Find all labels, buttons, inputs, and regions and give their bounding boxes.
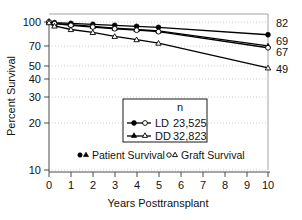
open-circle-icon bbox=[266, 45, 271, 50]
legend-dd-label: DD bbox=[155, 130, 171, 142]
y-tick-label-40: 40 bbox=[29, 73, 41, 85]
open-circle-icon bbox=[143, 121, 148, 126]
x-tick-label-10: 10 bbox=[262, 179, 274, 191]
y-tick-label-30: 30 bbox=[29, 91, 41, 103]
y-tick-label-100: 100 bbox=[23, 16, 41, 28]
endpoint-labels: 82 69 67 49 bbox=[276, 17, 288, 75]
y-tick-label-50: 50 bbox=[29, 60, 41, 72]
open-triangle-icon bbox=[173, 152, 178, 156]
x-tick-label-6: 6 bbox=[178, 179, 184, 191]
annotation-graft-survival: Graft Survival bbox=[167, 149, 245, 161]
endpoint-label-67: 67 bbox=[276, 46, 288, 58]
legend-header-n: n bbox=[177, 101, 183, 113]
filled-triangle-icon bbox=[84, 152, 89, 156]
open-circle-icon bbox=[167, 153, 171, 157]
legend-ld-n: 23,525 bbox=[173, 117, 207, 129]
y-tick-label-10: 10 bbox=[29, 164, 41, 176]
filled-circle-icon bbox=[266, 32, 271, 37]
filled-circle-icon bbox=[78, 153, 82, 157]
survival-chart: 100 70 50 40 30 20 10 Percent Survival 0… bbox=[0, 0, 302, 220]
open-circle-icon bbox=[156, 29, 161, 34]
filled-circle-icon bbox=[132, 121, 137, 126]
x-tick-label-8: 8 bbox=[222, 179, 228, 191]
x-tick-label-2: 2 bbox=[90, 179, 96, 191]
y-tick-label-70: 70 bbox=[29, 40, 41, 52]
data-series-layer bbox=[46, 19, 270, 70]
x-axis: 0 1 2 3 4 5 6 7 8 9 10 Years Posttranspl… bbox=[46, 172, 274, 209]
series-annotations: Patient Survival Graft Survival bbox=[78, 149, 245, 161]
y-axis: 100 70 50 40 30 20 10 Percent Survival bbox=[5, 16, 49, 176]
endpoint-label-82: 82 bbox=[276, 17, 288, 29]
endpoint-label-49: 49 bbox=[276, 63, 288, 75]
legend-dd-n: 32,823 bbox=[173, 130, 207, 142]
open-circle-icon bbox=[134, 28, 139, 33]
chart-canvas: 100 70 50 40 30 20 10 Percent Survival 0… bbox=[0, 0, 302, 220]
plot-frame bbox=[49, 14, 268, 170]
x-tick-label-9: 9 bbox=[244, 179, 250, 191]
legend-ld-label: LD bbox=[155, 117, 169, 129]
annotation-graft-survival-label: Graft Survival bbox=[181, 149, 245, 161]
x-tick-label-7: 7 bbox=[200, 179, 206, 191]
y-tick-label-20: 20 bbox=[29, 117, 41, 129]
x-tick-label-0: 0 bbox=[46, 179, 52, 191]
x-tick-label-1: 1 bbox=[68, 179, 74, 191]
x-tick-label-5: 5 bbox=[156, 179, 162, 191]
x-tick-label-3: 3 bbox=[112, 179, 118, 191]
x-axis-title: Years Posttransplant bbox=[107, 197, 208, 209]
open-circle-icon bbox=[112, 26, 117, 31]
annotation-patient-survival: Patient Survival bbox=[78, 149, 165, 161]
annotation-patient-survival-label: Patient Survival bbox=[92, 149, 165, 161]
x-tick-label-4: 4 bbox=[134, 179, 140, 191]
open-circle-icon bbox=[90, 25, 95, 30]
y-axis-title: Percent Survival bbox=[5, 56, 17, 136]
legend: n LD 23,525 DD 32,823 bbox=[123, 99, 207, 142]
